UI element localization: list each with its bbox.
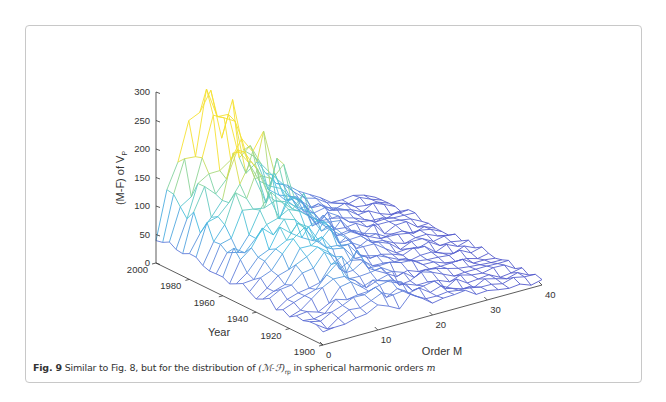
order-tick-label: 10 (381, 334, 392, 345)
mesh-line (356, 314, 367, 318)
mesh-line (437, 292, 448, 296)
year-tick (286, 329, 290, 330)
mesh-line (310, 322, 317, 325)
mesh-line (378, 222, 389, 225)
mesh-line (292, 273, 303, 285)
mesh-line (174, 159, 185, 195)
mesh-line (303, 319, 314, 321)
mesh-line (281, 285, 292, 289)
mesh-line (209, 271, 216, 274)
mesh-line (233, 100, 244, 151)
mesh-line (253, 131, 264, 152)
mesh-line (287, 299, 294, 302)
mesh-line (397, 272, 404, 276)
mesh-line (283, 310, 290, 317)
mesh-line (327, 275, 334, 279)
mesh-line (359, 255, 366, 256)
mesh-line (443, 295, 454, 299)
mesh-line (279, 202, 286, 219)
mesh-line (247, 257, 258, 273)
order-tick-label: 20 (436, 319, 447, 330)
mesh-line (289, 209, 296, 219)
z-tick (156, 92, 160, 94)
mesh-line (438, 255, 449, 257)
mesh-line (198, 184, 205, 187)
mesh-line (167, 190, 174, 195)
mesh-line (333, 248, 344, 249)
mesh-line (481, 284, 492, 287)
mesh-line (203, 266, 210, 272)
mesh-line (169, 207, 180, 242)
mesh-line (278, 276, 285, 285)
mesh-line (353, 261, 364, 271)
mesh-line (389, 306, 400, 309)
mesh-line (200, 223, 207, 234)
mesh-line (218, 217, 225, 225)
z-tick-label: 100 (134, 200, 150, 211)
z-tick-label: 200 (134, 143, 150, 154)
mesh-line (349, 308, 360, 310)
mesh-line (371, 272, 378, 280)
year-tick-label: 2000 (127, 264, 148, 275)
mesh-line (430, 286, 441, 293)
mesh-line (472, 273, 483, 275)
mesh-line (156, 241, 163, 243)
mesh-line (389, 220, 400, 222)
mesh-line (313, 252, 324, 268)
mesh-line (478, 259, 485, 260)
mesh-line (433, 236, 444, 241)
mesh-line (224, 118, 231, 160)
mesh-line (229, 193, 236, 203)
mesh-line (281, 289, 288, 299)
mesh-line (258, 257, 265, 261)
mesh-line (178, 121, 189, 163)
mesh-line (408, 210, 415, 213)
mesh-line (220, 244, 227, 253)
mesh-line (393, 215, 404, 218)
mesh-line (257, 131, 264, 162)
year-tick (219, 296, 223, 297)
mesh-line (333, 276, 344, 279)
mesh-line (524, 277, 531, 285)
mesh-line (371, 293, 382, 301)
mesh-line (400, 294, 411, 309)
mesh-line (338, 310, 349, 318)
mesh-line (472, 275, 479, 279)
mesh-line (408, 270, 419, 271)
mesh-line (180, 207, 187, 219)
mesh-line (476, 266, 487, 269)
mesh-line (174, 194, 181, 207)
mesh-line (335, 256, 342, 257)
mesh-line (416, 238, 423, 239)
mesh-line (305, 296, 312, 299)
mesh-line (258, 250, 269, 258)
mesh-line (314, 319, 321, 321)
order-tick (539, 282, 542, 285)
mesh-line (205, 187, 212, 218)
mesh-line (482, 268, 493, 274)
mesh-line (343, 218, 350, 222)
mesh-line (473, 263, 480, 265)
mesh-line (220, 171, 227, 180)
mesh-line (263, 291, 274, 299)
mesh-line (254, 261, 265, 279)
mesh-line (196, 257, 203, 265)
order-tick-label: 30 (490, 304, 501, 315)
order-tick (430, 312, 433, 315)
mesh-line (430, 269, 437, 270)
order-tick-label: 40 (545, 289, 556, 300)
year-tick-label: 1940 (227, 313, 248, 324)
mesh-line (271, 254, 282, 271)
z-tick (156, 121, 160, 123)
mesh-line (243, 284, 250, 292)
mesh-line (420, 230, 427, 234)
mesh-line (320, 265, 331, 283)
mesh-line (265, 261, 272, 270)
mesh-line (340, 287, 347, 300)
mesh-line (261, 271, 272, 278)
mesh-line (265, 249, 276, 261)
mesh-line (250, 278, 261, 292)
mesh-line (345, 318, 356, 324)
mesh-line (389, 222, 396, 226)
mesh-line (314, 208, 325, 213)
